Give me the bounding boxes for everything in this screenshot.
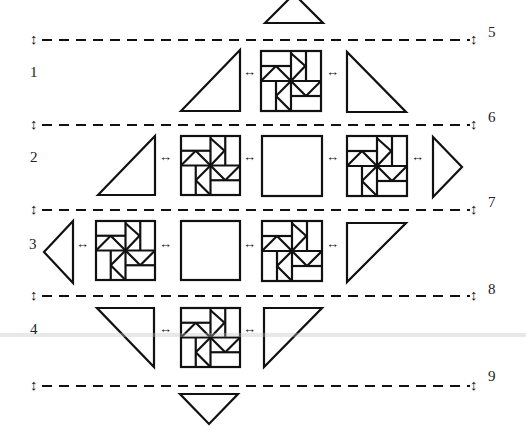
row1-right-triangle <box>347 52 406 112</box>
left-right-arrow-icon: ↔ <box>326 149 339 165</box>
row4-right-triangle <box>264 308 322 367</box>
up-down-arrow-icon: ↕ <box>30 31 38 48</box>
bottom-setting-triangle <box>180 394 238 424</box>
left-right-arrow-icon: ↔ <box>243 236 256 252</box>
up-down-arrow-icon: ↕ <box>470 287 478 304</box>
up-down-arrow-icon: ↕ <box>470 31 478 48</box>
up-down-arrow-icon: ↕ <box>30 116 38 133</box>
pinwheel-block <box>96 221 155 280</box>
row-label: 4 <box>30 321 38 338</box>
left-right-arrow-icon: ↔ <box>243 321 256 337</box>
up-down-arrow-icon: ↕ <box>470 201 478 218</box>
left-right-arrow-icon: ↔ <box>159 149 172 165</box>
quilt-assembly-diagram <box>0 0 526 442</box>
scan-artifact-line <box>0 333 526 337</box>
seam-label: 9 <box>488 368 496 385</box>
up-down-arrow-icon: ↕ <box>470 377 478 394</box>
up-down-arrow-icon: ↕ <box>30 201 38 218</box>
left-right-arrow-icon: ↔ <box>76 236 89 252</box>
pinwheel-block <box>262 221 322 281</box>
plain-square-block <box>181 221 240 280</box>
up-down-arrow-icon: ↕ <box>470 116 478 133</box>
left-right-arrow-icon: ↔ <box>411 149 424 165</box>
row2-right-triangle <box>433 137 462 197</box>
seam-label: 7 <box>488 194 496 211</box>
row4-left-triangle <box>97 308 154 367</box>
pinwheel-block <box>261 51 321 111</box>
left-right-arrow-icon: ↔ <box>326 236 339 252</box>
up-down-arrow-icon: ↕ <box>30 377 38 394</box>
pinwheel-block <box>347 136 407 196</box>
seam-label: 5 <box>488 24 496 41</box>
row3-left-triangle <box>44 221 73 283</box>
left-right-arrow-icon: ↔ <box>243 149 256 165</box>
left-right-arrow-icon: ↔ <box>243 64 256 80</box>
seam-label: 8 <box>488 281 496 298</box>
row-label: 3 <box>29 236 37 253</box>
plain-square-block <box>262 136 322 196</box>
pinwheel-block <box>181 136 240 195</box>
left-right-arrow-icon: ↔ <box>159 236 172 252</box>
pinwheel-block <box>181 308 240 367</box>
left-right-arrow-icon: ↔ <box>326 64 339 80</box>
top-setting-triangle <box>265 0 323 23</box>
seam-label: 6 <box>488 109 496 126</box>
row-label: 2 <box>30 149 38 166</box>
left-right-arrow-icon: ↔ <box>159 321 172 337</box>
up-down-arrow-icon: ↕ <box>30 287 38 304</box>
row1-left-triangle <box>181 50 240 111</box>
row2-left-triangle <box>98 136 155 195</box>
row-label: 1 <box>30 64 38 81</box>
row3-right-triangle <box>347 223 406 282</box>
